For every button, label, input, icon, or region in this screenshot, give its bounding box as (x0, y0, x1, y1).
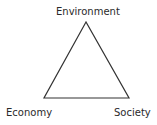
label-society: Society (114, 107, 151, 119)
triangle-shape (44, 22, 129, 98)
label-economy: Economy (6, 107, 52, 119)
label-environment: Environment (56, 6, 116, 18)
